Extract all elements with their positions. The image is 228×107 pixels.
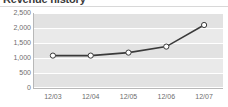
y-axis-line <box>33 13 34 89</box>
y-axis-tick-label: 1,500 <box>1 39 31 47</box>
x-axis-tick-label: 12/06 <box>149 93 183 101</box>
y-axis-tick-label: 2,000 <box>1 24 31 32</box>
y-axis: 05001,0001,5002,0002,500 <box>0 0 31 107</box>
x-axis-tick-label: 12/03 <box>36 93 70 101</box>
data-point-marker[interactable] <box>88 53 93 58</box>
data-point-marker[interactable] <box>50 53 55 58</box>
plot-area <box>34 13 223 88</box>
data-point-marker[interactable] <box>164 44 169 49</box>
title-divider <box>0 6 228 7</box>
data-point-marker[interactable] <box>126 50 131 55</box>
y-axis-tick-label: 2,500 <box>1 9 31 17</box>
revenue-history-chart-widget: Revenue history 05001,0001,5002,0002,500… <box>0 0 228 107</box>
y-axis-tick-label: 1,000 <box>1 54 31 62</box>
x-axis-tick-label: 12/05 <box>112 93 146 101</box>
y-axis-tick-label: 0 <box>1 84 31 92</box>
data-point-marker[interactable] <box>202 22 207 27</box>
x-axis: 12/0312/0412/0512/0612/07 <box>34 93 223 103</box>
x-axis-tick-label: 12/07 <box>187 93 221 101</box>
x-axis-line <box>34 88 223 89</box>
x-axis-tick-label: 12/04 <box>74 93 108 101</box>
y-axis-tick-label: 500 <box>1 69 31 77</box>
line-series-svg <box>34 13 223 88</box>
